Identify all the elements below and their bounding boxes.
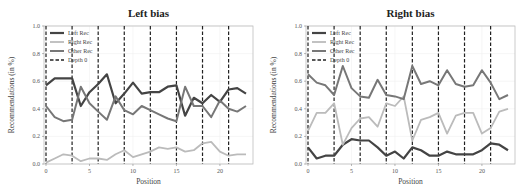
x-tick-label: 20 bbox=[217, 168, 223, 174]
x-tick-label: 10 bbox=[392, 168, 398, 174]
series-other-rec bbox=[308, 66, 508, 99]
y-axis-label: Recommendations (in %) bbox=[269, 56, 278, 133]
x-axis-label: Position bbox=[136, 177, 161, 186]
legend-label: Left Rec bbox=[330, 30, 351, 36]
y-tick-label: 0.8 bbox=[33, 51, 41, 57]
y-tick-label: 0.8 bbox=[295, 51, 303, 57]
y-tick-label: 0.0 bbox=[295, 161, 303, 167]
x-tick-label: 5 bbox=[88, 168, 91, 174]
y-tick-label: 0.6 bbox=[33, 78, 41, 84]
y-tick-label: 0.6 bbox=[295, 78, 303, 84]
x-tick-label: 0 bbox=[307, 168, 310, 174]
y-tick-label: 1.0 bbox=[33, 23, 41, 29]
plot-area bbox=[44, 26, 253, 164]
legend-label: Left Rec bbox=[68, 30, 89, 36]
x-tick-label: 5 bbox=[350, 168, 353, 174]
x-tick-label: 15 bbox=[173, 168, 179, 174]
x-tick-label: 20 bbox=[479, 168, 485, 174]
legend-label: Other Rec bbox=[330, 48, 355, 54]
figure: Left bias0.00.20.40.60.81.005101520Posit… bbox=[0, 0, 524, 195]
y-tick-label: 0.2 bbox=[295, 133, 303, 139]
chart-title: Left bias bbox=[128, 7, 170, 19]
left-bias-chart: Left bias0.00.20.40.60.81.005101520Posit… bbox=[0, 0, 262, 195]
y-tick-label: 0.4 bbox=[33, 106, 41, 112]
series-right-rec bbox=[46, 142, 246, 163]
chart-title: Right bias bbox=[387, 7, 436, 19]
legend: Left RecRight RecOther RecDepth 0 bbox=[50, 30, 93, 63]
legend-label: Depth 0 bbox=[330, 57, 349, 63]
y-tick-label: 0.0 bbox=[33, 161, 41, 167]
series-left-rec bbox=[308, 139, 508, 158]
x-tick-label: 0 bbox=[45, 168, 48, 174]
legend-label: Right Rec bbox=[68, 39, 93, 45]
x-tick-label: 15 bbox=[435, 168, 441, 174]
plot-area bbox=[306, 26, 515, 164]
legend-label: Depth 0 bbox=[68, 57, 87, 63]
legend-label: Other Rec bbox=[68, 48, 93, 54]
y-tick-label: 0.4 bbox=[295, 106, 303, 112]
y-tick-label: 0.2 bbox=[33, 133, 41, 139]
legend-label: Right Rec bbox=[330, 39, 355, 45]
right-bias-chart: Right bias0.00.20.40.60.81.005101520Posi… bbox=[262, 0, 524, 195]
x-axis-label: Position bbox=[398, 177, 423, 186]
y-tick-label: 1.0 bbox=[295, 23, 303, 29]
legend: Left RecRight RecOther RecDepth 0 bbox=[312, 30, 355, 63]
y-axis-label: Recommendations (in %) bbox=[7, 56, 16, 133]
x-tick-label: 10 bbox=[130, 168, 136, 174]
series-right-rec bbox=[308, 96, 508, 144]
